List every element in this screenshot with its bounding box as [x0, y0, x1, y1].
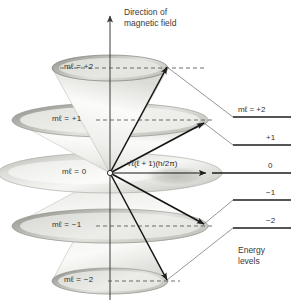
- disk-shadow: [140, 165, 212, 187]
- energy-caption-line2: levels: [238, 257, 260, 267]
- axis-title-line1: Direction of: [124, 8, 167, 18]
- cone-label-m-minus-1: mℓ = −1: [52, 220, 82, 229]
- energy-label-plus-2: mℓ = +2: [238, 105, 266, 114]
- energy-caption-line1: Energy: [238, 246, 265, 256]
- energy-label-plus-1: +1: [266, 133, 275, 142]
- axis-title-line2: magnetic field: [124, 19, 176, 29]
- cone-label-m-plus-1: mℓ = +1: [52, 114, 82, 123]
- energy-level-lines: [212, 117, 291, 228]
- energy-label-minus-2: −2: [266, 216, 275, 225]
- space-quantization-figure: Direction of magnetic field mℓ = +2 mℓ =…: [0, 0, 296, 307]
- cone-label-m-minus-2: mℓ = −2: [64, 275, 94, 284]
- vector-magnitude-formula: √ℓ(ℓ + 1)(h/2π): [127, 159, 177, 168]
- cone-label-m-plus-2: mℓ = +2: [64, 62, 94, 71]
- energy-label-minus-1: −1: [266, 188, 275, 197]
- energy-label-zero: 0: [268, 161, 272, 170]
- origin-point: [107, 170, 112, 175]
- cone-label-m-zero: mℓ = 0: [62, 167, 87, 176]
- connector-plus-1: [204, 123, 233, 145]
- connector-minus-1: [204, 200, 233, 224]
